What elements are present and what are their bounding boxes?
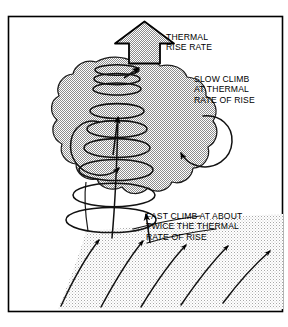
label-fast-climb: FAST CLIMB AT ABOUT TWICE THE THERMAL RA… bbox=[146, 211, 242, 242]
label-slow-climb: SLOW CLIMB AT THERMAL RATE OF RISE bbox=[194, 74, 255, 105]
thermal-rise-arrow bbox=[113, 20, 177, 66]
